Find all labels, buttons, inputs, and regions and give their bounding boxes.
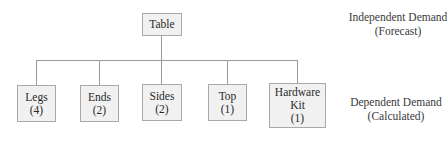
connector-top — [227, 60, 228, 85]
node-sides-qty: (2) — [155, 103, 168, 116]
annotation-dependent-line2: (Calculated) — [344, 109, 448, 123]
annotation-dependent-line1: Dependent Demand — [344, 95, 448, 109]
connector-root-down — [161, 35, 162, 60]
node-table-label: Table — [149, 18, 174, 31]
annotation-independent-demand: Independent Demand (Forecast) — [346, 10, 448, 38]
node-table: Table — [142, 13, 182, 36]
node-hardware-kit-qty: (1) — [291, 112, 304, 125]
node-sides: Sides (2) — [142, 84, 182, 121]
annotation-independent-line2: (Forecast) — [346, 24, 448, 38]
connector-horizontal-bar — [36, 60, 298, 61]
bom-diagram: Table Legs (4) Ends (2) Sides (2) Top (1… — [0, 0, 448, 143]
node-hardware-kit: Hardware Kit (1) — [269, 83, 326, 128]
node-legs-qty: (4) — [30, 104, 43, 117]
annotation-independent-line1: Independent Demand — [346, 10, 448, 24]
node-ends-label: Ends — [88, 91, 111, 104]
node-sides-label: Sides — [150, 90, 175, 103]
node-legs: Legs (4) — [17, 85, 56, 122]
connector-hardware-kit — [297, 60, 298, 83]
node-legs-label: Legs — [25, 91, 47, 104]
node-ends-qty: (2) — [93, 104, 106, 117]
connector-legs — [36, 60, 37, 85]
node-top-qty: (1) — [221, 103, 234, 116]
connector-sides — [161, 60, 162, 85]
node-hardware-kit-label2: Kit — [290, 99, 305, 112]
node-ends: Ends (2) — [80, 85, 119, 122]
node-hardware-kit-label: Hardware — [275, 86, 320, 99]
connector-ends — [99, 60, 100, 85]
node-top: Top (1) — [208, 84, 247, 121]
annotation-dependent-demand: Dependent Demand (Calculated) — [344, 95, 448, 123]
node-top-label: Top — [219, 90, 237, 103]
